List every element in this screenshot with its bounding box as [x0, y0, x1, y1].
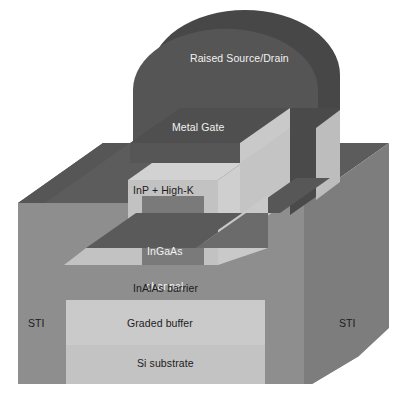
- device-3d-illustration: [0, 0, 407, 398]
- sti-right-foreground: [265, 300, 304, 384]
- gate-upper-front-face: [130, 143, 240, 163]
- graded-buffer-foreground: [66, 300, 265, 345]
- device-schematic-diagram: Raised Source/Drain Metal Gate InP + Hig…: [0, 0, 407, 398]
- sti-left-foreground: [18, 300, 66, 384]
- base-corner-bevel-foreground: [304, 356, 359, 384]
- si-substrate-foreground: [66, 345, 265, 384]
